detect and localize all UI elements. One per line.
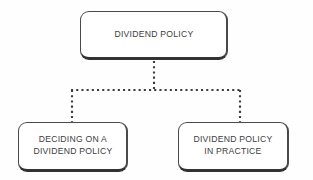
node-deciding-on-a-dividend-policy-label: DECIDING ON A DIVIDEND POLICY [33, 134, 112, 157]
node-dividend-policy-in-practice-label: DIVIDEND POLICY IN PRACTICE [194, 134, 273, 157]
node-dividend-policy[interactable]: DIVIDEND POLICY [80, 11, 228, 60]
diagram-canvas: DIVIDEND POLICY DECIDING ON A DIVIDEND P… [0, 0, 313, 180]
node-dividend-policy-label: DIVIDEND POLICY [114, 29, 193, 41]
node-deciding-on-a-dividend-policy[interactable]: DECIDING ON A DIVIDEND POLICY [18, 122, 128, 172]
node-dividend-policy-in-practice[interactable]: DIVIDEND POLICY IN PRACTICE [178, 122, 289, 172]
